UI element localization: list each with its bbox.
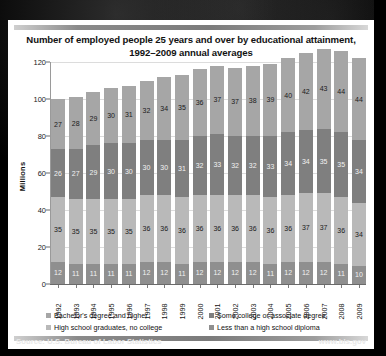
bar-segment[interactable]: 35 — [51, 197, 65, 262]
bar-segment[interactable]: 36 — [140, 195, 154, 262]
bar-segment[interactable]: 32 — [228, 136, 242, 195]
legend-item[interactable]: Less than a high school diploma — [209, 321, 366, 333]
bar-column[interactable]: 36323612 — [193, 69, 207, 284]
bar-segment[interactable]: 33 — [263, 136, 277, 197]
bar-segment[interactable]: 11 — [334, 264, 348, 284]
bar-segment[interactable]: 30 — [104, 143, 118, 199]
bar-segment[interactable]: 42 — [299, 53, 313, 131]
bar-segment[interactable]: 11 — [104, 264, 118, 284]
bar-segment[interactable]: 30 — [122, 143, 136, 199]
legend-item[interactable]: Bachelor's degree and higher — [46, 309, 203, 321]
bar-segment[interactable]: 36 — [246, 195, 260, 262]
bar-segment[interactable]: 12 — [228, 262, 242, 284]
bar-segment[interactable]: 12 — [140, 262, 154, 284]
bar-column[interactable]: 40343612 — [281, 58, 295, 284]
bar-segment[interactable]: 32 — [140, 81, 154, 140]
bar-segment[interactable]: 36 — [210, 195, 224, 262]
bar-segment[interactable]: 10 — [352, 266, 366, 285]
bar-segment[interactable]: 34 — [281, 132, 295, 195]
bar-column[interactable]: 37323612 — [228, 68, 242, 284]
bar-column[interactable]: 38323612 — [246, 66, 260, 284]
bar-segment[interactable]: 28 — [69, 97, 83, 149]
chart-footer: Source: U.S. Bureau of Labor Statistics … — [8, 334, 374, 348]
bar-segment[interactable]: 38 — [246, 66, 260, 136]
bar-segment[interactable]: 35 — [86, 199, 100, 264]
bar-segment[interactable]: 44 — [352, 58, 366, 139]
bar-segment[interactable]: 11 — [69, 264, 83, 284]
y-tick-mark — [46, 62, 50, 63]
bar-segment[interactable]: 12 — [317, 262, 331, 284]
bar-segment[interactable]: 27 — [69, 149, 83, 199]
bar-segment[interactable]: 29 — [86, 92, 100, 146]
bar-segment[interactable]: 12 — [157, 262, 171, 284]
bar-segment[interactable]: 43 — [317, 49, 331, 129]
bar-column[interactable]: 27263512 — [51, 99, 65, 284]
bar-segment[interactable]: 11 — [263, 264, 277, 284]
bar-segment[interactable]: 34 — [157, 77, 171, 140]
bar-segment[interactable]: 36 — [281, 195, 295, 262]
bar-column[interactable]: 32303612 — [140, 81, 154, 284]
bar-segment[interactable]: 36 — [228, 195, 242, 262]
bar-column[interactable]: 37333612 — [210, 66, 224, 284]
bar-segment[interactable]: 36 — [193, 195, 207, 262]
bar-segment[interactable]: 37 — [317, 193, 331, 261]
bar-segment[interactable]: 35 — [104, 199, 118, 264]
bar-segment[interactable]: 11 — [86, 264, 100, 284]
bar-segment[interactable]: 31 — [122, 86, 136, 143]
bar-segment[interactable]: 44 — [334, 51, 348, 132]
bar-column[interactable]: 39333611 — [263, 64, 277, 284]
bar-segment[interactable]: 36 — [263, 197, 277, 264]
bar-segment[interactable]: 32 — [193, 136, 207, 195]
bar-segment[interactable]: 37 — [299, 193, 313, 261]
bar-segment[interactable]: 31 — [175, 140, 189, 197]
bar-segment[interactable]: 37 — [228, 68, 242, 136]
y-axis-ticks: 020406080100120 — [22, 62, 46, 284]
bar-segment[interactable]: 26 — [51, 149, 65, 197]
bar-segment[interactable]: 12 — [299, 262, 313, 284]
bar-segment[interactable]: 35 — [334, 132, 348, 197]
bar-segment[interactable]: 36 — [175, 197, 189, 264]
bar-column[interactable]: 30303511 — [104, 88, 118, 284]
bar-column[interactable]: 29293511 — [86, 92, 100, 284]
bar-segment[interactable]: 35 — [122, 199, 136, 264]
bar-segment[interactable]: 36 — [193, 69, 207, 136]
bar-segment[interactable]: 36 — [157, 195, 171, 262]
legend-item[interactable]: High school graduates, no college — [46, 321, 203, 333]
bar-column[interactable]: 35313611 — [175, 75, 189, 284]
bar-segment[interactable]: 40 — [281, 58, 295, 132]
bar-segment[interactable]: 12 — [193, 262, 207, 284]
bar-column[interactable]: 31303511 — [122, 86, 136, 284]
bar-segment[interactable]: 37 — [210, 66, 224, 134]
bar-column[interactable]: 34303612 — [157, 77, 171, 284]
bar-segment[interactable]: 36 — [334, 197, 348, 264]
bar-segment[interactable]: 39 — [263, 64, 277, 136]
bar-segment-value: 26 — [54, 170, 62, 177]
bar-column[interactable]: 42343712 — [299, 53, 313, 284]
bar-segment[interactable]: 30 — [140, 140, 154, 196]
bar-segment[interactable]: 34 — [352, 140, 366, 203]
bar-segment[interactable]: 32 — [246, 136, 260, 195]
bar-segment[interactable]: 29 — [86, 145, 100, 199]
bar-column[interactable]: 28273511 — [69, 97, 83, 284]
bar-segment[interactable]: 34 — [299, 130, 313, 193]
bar-segment[interactable]: 11 — [175, 264, 189, 284]
bar-segment[interactable]: 35 — [175, 75, 189, 140]
bar-segment[interactable]: 12 — [281, 262, 295, 284]
chart-title-line2: 1992–2009 annual averages — [129, 47, 252, 58]
bar-segment[interactable]: 30 — [104, 88, 118, 144]
bar-segment[interactable]: 27 — [51, 99, 65, 149]
x-tick-mark — [324, 285, 325, 288]
bar-segment[interactable]: 34 — [352, 203, 366, 266]
bar-segment[interactable]: 35 — [317, 129, 331, 194]
bar-segment[interactable]: 11 — [122, 264, 136, 284]
bar-column[interactable]: 44353611 — [334, 51, 348, 284]
bar-segment[interactable]: 12 — [51, 262, 65, 284]
legend-item[interactable]: Some college or associate degree — [209, 309, 366, 321]
bar-segment[interactable]: 12 — [210, 262, 224, 284]
bar-column[interactable]: 43353712 — [317, 49, 331, 284]
bar-segment[interactable]: 30 — [157, 140, 171, 196]
bar-segment[interactable]: 12 — [246, 262, 260, 284]
bar-column[interactable]: 44343410 — [352, 58, 366, 284]
bar-segment[interactable]: 35 — [69, 199, 83, 264]
bar-segment[interactable]: 33 — [210, 134, 224, 195]
